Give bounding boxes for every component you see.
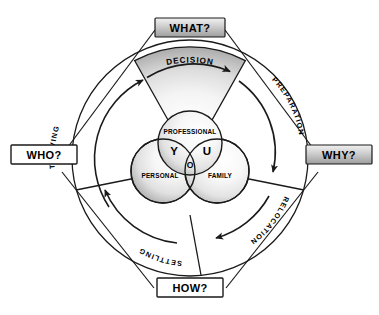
diamond-edge-who-what [62,30,155,155]
venn-diagram: PROFESSIONAL PERSONAL FAMILY Y U O [131,111,249,203]
diagram-root: DECISION THRIVING PREPARATION RELOCATION [0,0,379,315]
radial-divider-bottom [190,215,201,275]
corner-label-what-text: WHAT? [170,22,211,34]
phase-label-relocation: RELOCATION [248,195,291,247]
relocation-cycle-diagram: DECISION THRIVING PREPARATION RELOCATION [0,0,379,315]
venn-label-family: FAMILY [208,172,233,179]
diamond-edge-what-why [225,30,318,155]
venn-letter-y: Y [170,145,178,157]
radial-divider-right [244,178,304,190]
phase-label-settling: SETTLING [137,246,183,268]
phase-thriving: THRIVING [47,80,143,207]
venn-label-personal: PERSONAL [141,172,178,179]
corner-label-who-text: WHO? [26,149,61,161]
corner-label-how-text: HOW? [172,282,207,294]
radial-divider-left [76,178,136,190]
corner-label-why-text: WHY? [322,149,356,161]
decision-wedge: DECISION [135,47,246,120]
corner-label-who[interactable]: WHO? [11,145,77,164]
corner-label-what[interactable]: WHAT? [155,18,225,37]
venn-letter-o: O [187,160,194,170]
corner-label-why[interactable]: WHY? [306,145,372,164]
phase-label-preparation: PREPARATION [270,75,306,136]
corner-label-how[interactable]: HOW? [157,278,223,297]
venn-letter-u: U [203,145,211,157]
phase-preparation: PREPARATION [239,75,306,172]
venn-label-professional: PROFESSIONAL [164,128,217,135]
